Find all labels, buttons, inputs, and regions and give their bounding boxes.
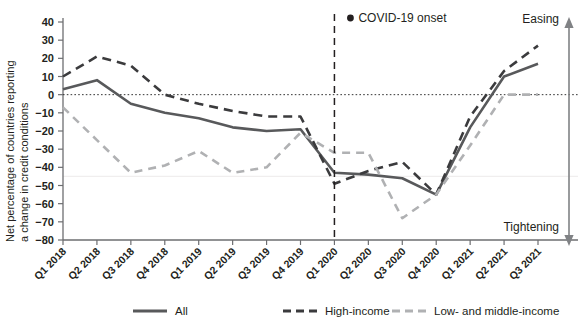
arrow-up-icon [564,17,573,28]
x-tick-label-q1-2019: Q1 2019 [167,245,204,282]
credit-conditions-chart: Net percentage of countries reporting a … [0,0,582,324]
x-tick-label-q2-2019: Q2 2019 [201,245,238,282]
series-lines [63,46,538,219]
y-tick-label--60: −60 [35,198,54,210]
series-line-all [63,64,538,195]
series-line-high-income [63,46,538,195]
x-tick-label-q3-2019: Q3 2019 [235,245,272,282]
x-tick-label-q3-2021: Q3 2021 [506,245,543,282]
y-tick-label--80: −80 [35,234,54,246]
axis-lines [63,18,578,240]
chart-legend: AllHigh-incomeLow- and middle-income [133,305,559,317]
y-tick-label--70: −70 [35,216,54,228]
y-axis-title-line-1: Net percentage of countries reporting [4,60,16,242]
x-tick-label-q1-2020: Q1 2020 [303,245,340,282]
x-tick-label-q4-2018: Q4 2018 [133,245,170,282]
y-axis-title: Net percentage of countries reporting a … [4,60,30,242]
x-tick-label-q3-2018: Q3 2018 [99,245,136,282]
x-tick-label-q1-2021: Q1 2021 [439,245,476,282]
legend-label-high-income: High-income [325,305,390,317]
covid-onset-dot [347,15,354,22]
x-tick-label-q2-2021: Q2 2021 [473,245,510,282]
tightening-label: Tightening [503,220,559,234]
x-axis-ticks: Q1 2018Q2 2018Q3 2018Q4 2018Q1 2019Q2 20… [31,240,543,282]
y-tick-label--10: −10 [35,107,54,119]
y-tick-label-0: 0 [48,89,54,101]
x-tick-label-q4-2019: Q4 2019 [269,245,306,282]
y-tick-label--50: −50 [35,180,54,192]
x-tick-label-q4-2020: Q4 2020 [405,245,442,282]
y-tick-label--20: −20 [35,125,54,137]
x-tick-label-q3-2020: Q3 2020 [371,245,408,282]
x-tick-label-q2-2018: Q2 2018 [65,245,102,282]
chart-annotations: COVID-19 onset [334,11,447,240]
legend-label-all: All [175,305,188,317]
y-axis-ticks: 403020100−10−20−30−40−50−60−70−80 [35,16,63,246]
legend-label-low-and-middle-income: Low- and middle-income [434,305,559,317]
y-tick-label-40: 40 [42,16,54,28]
y-axis-title-line-2: a change in credit conditions [18,102,30,242]
y-tick-label--30: −30 [35,143,54,155]
y-tick-label-20: 20 [42,52,54,64]
x-tick-label-q1-2018: Q1 2018 [31,245,68,282]
y-tick-label--40: −40 [35,161,54,173]
direction-arrow-axis: EasingTightening [503,12,573,246]
series-line-low-and-middle-income [63,95,538,219]
easing-label: Easing [522,12,559,26]
covid-onset-label: COVID-19 onset [358,11,447,25]
x-tick-label-q2-2020: Q2 2020 [337,245,374,282]
y-tick-label-10: 10 [42,71,54,83]
chart-canvas: Net percentage of countries reporting a … [0,0,582,324]
y-tick-label-30: 30 [42,34,54,46]
